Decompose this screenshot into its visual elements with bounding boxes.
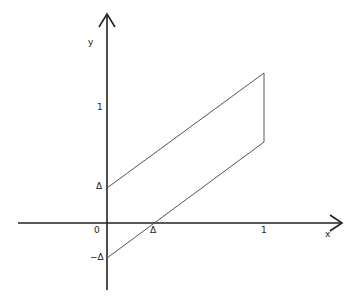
diagram-canvas bbox=[0, 0, 353, 305]
y-axis bbox=[99, 14, 115, 290]
y-tick-one: 1 bbox=[97, 103, 103, 112]
y-axis-label: y bbox=[88, 38, 93, 47]
x-tick-one: 1 bbox=[261, 226, 267, 235]
origin-label: 0 bbox=[94, 226, 100, 235]
upper-line bbox=[107, 73, 264, 188]
lower-line bbox=[107, 142, 264, 258]
x-tick-delta: Δ bbox=[150, 226, 156, 235]
x-axis bbox=[18, 215, 342, 231]
y-tick-delta: Δ bbox=[96, 182, 102, 191]
y-tick-neg-delta: −Δ bbox=[90, 253, 104, 262]
band-region bbox=[107, 73, 264, 258]
x-axis-label: x bbox=[325, 230, 330, 239]
